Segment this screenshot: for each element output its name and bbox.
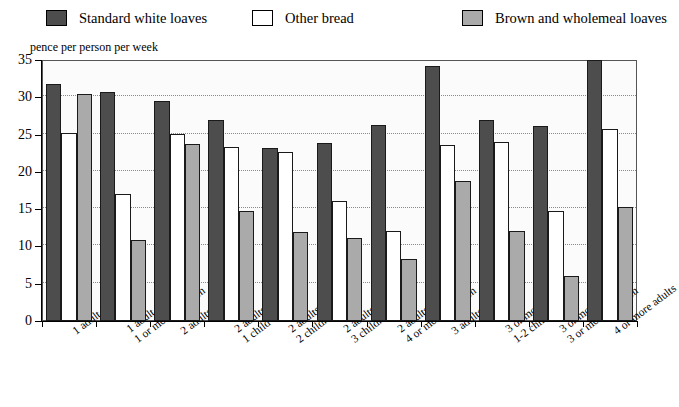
bar bbox=[494, 142, 509, 321]
legend-item-label: Brown and wholemeal loaves bbox=[495, 10, 667, 26]
bar bbox=[46, 84, 61, 321]
bar bbox=[115, 194, 130, 321]
bar-group bbox=[583, 60, 637, 321]
bar bbox=[455, 181, 470, 321]
y-axis-tick-mark bbox=[35, 135, 42, 136]
bar bbox=[293, 232, 308, 321]
bar bbox=[239, 211, 254, 321]
bar bbox=[262, 148, 277, 321]
chart-legend: Standard white loaves Other bread Brown … bbox=[0, 4, 649, 32]
y-axis-tick-label: 25 bbox=[18, 128, 32, 142]
bar bbox=[224, 147, 239, 321]
legend-item-brown-wholemeal-loaves: Brown and wholemeal loaves bbox=[462, 10, 667, 26]
bar bbox=[440, 145, 455, 321]
legend-swatch-icon bbox=[46, 10, 67, 26]
bar-group bbox=[475, 60, 529, 321]
y-axis: 05101520253035 bbox=[0, 60, 42, 322]
bar bbox=[587, 60, 602, 321]
bar bbox=[347, 238, 362, 321]
y-axis-tick-mark bbox=[35, 97, 42, 98]
bar-group bbox=[96, 60, 150, 321]
bar bbox=[618, 207, 633, 321]
y-axis-tick-label: 5 bbox=[25, 277, 32, 291]
bars-layer bbox=[42, 60, 637, 321]
bar bbox=[533, 126, 548, 321]
x-axis-labels: 1 adult only1 adult, 1 or more children2… bbox=[0, 321, 649, 407]
bar bbox=[278, 152, 293, 321]
legend-item-standard-white-loaves: Standard white loaves bbox=[46, 10, 207, 26]
bar-group bbox=[367, 60, 421, 321]
bar bbox=[317, 143, 332, 321]
bar bbox=[61, 133, 76, 321]
legend-swatch-icon bbox=[462, 10, 483, 26]
bar bbox=[548, 211, 563, 321]
legend-swatch-icon bbox=[252, 10, 273, 26]
y-axis-tick-mark bbox=[35, 172, 42, 173]
y-axis-tick-mark bbox=[35, 209, 42, 210]
bar bbox=[425, 66, 440, 321]
legend-item-label: Other bread bbox=[285, 10, 354, 26]
bar-group bbox=[42, 60, 96, 321]
bar-group bbox=[421, 60, 475, 321]
bar-group bbox=[150, 60, 204, 321]
legend-item-label: Standard white loaves bbox=[79, 10, 207, 26]
y-axis-tick-label: 30 bbox=[18, 90, 32, 104]
y-axis-tick-mark bbox=[35, 60, 42, 61]
bar bbox=[386, 231, 401, 321]
y-axis-title: pence per person per week bbox=[30, 40, 158, 55]
bar bbox=[401, 259, 416, 321]
y-axis-tick-label: 35 bbox=[18, 53, 32, 67]
bar bbox=[154, 101, 169, 321]
bar bbox=[131, 240, 146, 321]
bar-group bbox=[529, 60, 583, 321]
bar bbox=[185, 144, 200, 321]
bar bbox=[208, 120, 223, 321]
y-axis-tick-mark bbox=[35, 284, 42, 285]
bar bbox=[371, 125, 386, 321]
bar bbox=[602, 129, 617, 321]
bar-group bbox=[258, 60, 312, 321]
bar bbox=[170, 134, 185, 321]
bar bbox=[479, 120, 494, 321]
legend-item-other-bread: Other bread bbox=[252, 10, 354, 26]
y-axis-tick-label: 10 bbox=[18, 239, 32, 253]
bar bbox=[77, 94, 92, 321]
bar bbox=[564, 276, 579, 321]
bar-group bbox=[312, 60, 366, 321]
bar bbox=[509, 231, 524, 321]
y-axis-tick-label: 15 bbox=[18, 202, 32, 216]
y-axis-tick-label: 20 bbox=[18, 165, 32, 179]
bar-group bbox=[204, 60, 258, 321]
y-axis-tick-mark bbox=[35, 246, 42, 247]
bar bbox=[332, 201, 347, 321]
bar bbox=[100, 92, 115, 321]
